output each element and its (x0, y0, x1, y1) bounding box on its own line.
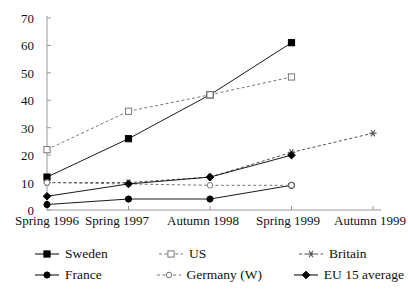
x-tick-label: Spring 1999 (241, 213, 335, 229)
data-point (125, 196, 131, 202)
data-point (207, 196, 213, 202)
eu15-marker-icon (293, 268, 319, 282)
series-line-segment (292, 133, 374, 152)
data-point (43, 192, 51, 200)
series-line-segment (47, 111, 129, 149)
y-tick-label: 30 (0, 121, 34, 137)
series-line-segment (210, 77, 292, 95)
us-marker-icon (158, 247, 184, 261)
series-line-segment (47, 199, 129, 204)
legend-row-1: Sweden US Britain (34, 243, 404, 264)
series-line-segment (47, 184, 129, 196)
series-line-segment (129, 95, 211, 111)
series-france (44, 182, 295, 207)
legend-item-eu15: EU 15 average (293, 264, 404, 285)
x-tick-label: Autumn 1999 (323, 213, 408, 229)
series-line-segment (129, 177, 211, 184)
data-point (289, 183, 295, 189)
series-sweden (44, 40, 295, 181)
legend-item-sweden: Sweden (34, 243, 158, 264)
y-tick-label: 50 (0, 66, 34, 82)
data-point (125, 180, 133, 188)
series-line-segment (47, 183, 129, 184)
germany-marker-icon (156, 268, 182, 282)
y-tick-label: 40 (0, 93, 34, 109)
data-point (125, 108, 131, 114)
y-tick-label: 60 (0, 38, 34, 54)
series-line-segment (210, 155, 292, 177)
chart-axes (47, 16, 381, 210)
sweden-marker-icon (34, 247, 60, 261)
data-point (207, 92, 213, 98)
series-line-segment (129, 184, 211, 185)
france-marker-icon (34, 268, 60, 282)
legend-label: Germany (W) (187, 268, 262, 282)
data-point (206, 173, 214, 181)
legend-label: US (189, 247, 206, 261)
y-tick-label: 10 (0, 176, 34, 192)
legend-row-2: France Germany (W) EU 15 average (34, 264, 404, 285)
x-tick-label: Spring 1997 (70, 213, 164, 229)
data-point (44, 174, 50, 180)
series-line-segment (210, 43, 292, 95)
x-tick-label: Autumn 1998 (156, 213, 250, 229)
legend-item-france: France (34, 264, 156, 285)
chart-legend: Sweden US Britain France Germany (W) (34, 243, 404, 287)
data-point (44, 201, 50, 207)
data-point (369, 130, 376, 136)
series-line-segment (210, 185, 292, 199)
data-point (44, 180, 50, 186)
y-tick-label: 20 (0, 148, 34, 164)
line-chart: 0 10 20 30 40 50 60 70 Spring 1996 Sprin… (0, 0, 408, 290)
legend-item-germany: Germany (W) (156, 264, 293, 285)
data-point (44, 147, 50, 153)
legend-label: France (65, 268, 102, 282)
data-point (288, 74, 294, 80)
series-eu-15-average (43, 151, 295, 200)
data-point (207, 183, 213, 189)
data-point (125, 136, 131, 142)
legend-label: Sweden (65, 247, 108, 261)
legend-label: EU 15 average (324, 268, 404, 282)
series-germany-w (44, 180, 294, 188)
series-line-segment (129, 95, 211, 139)
legend-item-britain: Britain (298, 243, 367, 264)
data-point (288, 40, 294, 46)
legend-item-us: US (158, 243, 298, 264)
series-us (44, 74, 295, 153)
britain-marker-icon (298, 247, 324, 261)
y-tick-label: 70 (0, 11, 34, 27)
legend-label: Britain (329, 247, 367, 261)
